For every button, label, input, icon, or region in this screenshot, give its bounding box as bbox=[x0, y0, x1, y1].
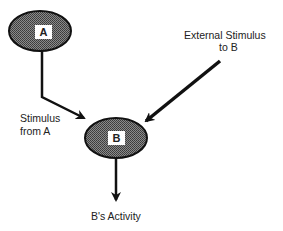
external-stimulus-label-line1: External Stimulus bbox=[184, 29, 266, 41]
stimulus-from-a-label-line2: from A bbox=[20, 125, 50, 137]
external-stimulus-arrow bbox=[146, 61, 220, 121]
external-stimulus-label-line2: to B bbox=[219, 41, 238, 53]
stimulus-from-a-label-line1: Stimulus bbox=[20, 112, 60, 124]
node-a-label: A bbox=[37, 25, 50, 39]
b-activity-label: B's Activity bbox=[91, 210, 141, 222]
node-b-label: B bbox=[110, 131, 123, 145]
stimulus-from-a-arrow bbox=[42, 51, 84, 118]
